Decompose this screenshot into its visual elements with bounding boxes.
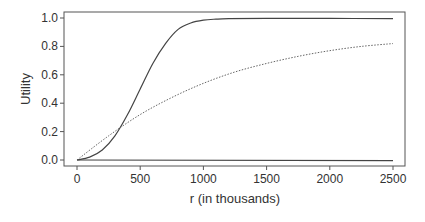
x-axis-title: r (in thousands) [190, 191, 280, 206]
chart: 0.00.20.40.60.81.0 05001000150020002500 … [0, 0, 425, 222]
x-tick-label: 2000 [316, 172, 343, 186]
y-tick-label: 0.0 [41, 153, 58, 167]
x-tick-label: 1500 [253, 172, 280, 186]
series-solid-sigmoid [77, 18, 393, 160]
y-tick-label: 0.8 [41, 39, 58, 53]
series-dotted-concave [77, 44, 393, 160]
y-tick-label: 0.6 [41, 68, 58, 82]
x-tick-label: 500 [130, 172, 150, 186]
y-tick-label: 1.0 [41, 11, 58, 25]
x-tick-label: 0 [74, 172, 81, 186]
series-layer [77, 18, 393, 160]
x-axis: 05001000150020002500 [74, 166, 407, 186]
x-tick-label: 1000 [190, 172, 217, 186]
x-tick-label: 2500 [380, 172, 407, 186]
y-axis: 0.00.20.40.60.81.0 [41, 11, 64, 167]
y-tick-label: 0.4 [41, 96, 58, 110]
series-solid-flat [77, 160, 393, 161]
y-tick-label: 0.2 [41, 125, 58, 139]
plot-frame [64, 12, 405, 166]
y-axis-title: Utility [18, 73, 33, 105]
